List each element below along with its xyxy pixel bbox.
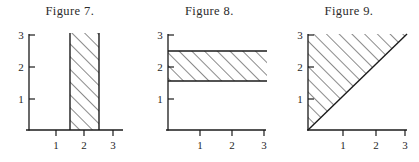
figure-8-shaded-region [168, 51, 267, 81]
figure-9-x-tick-3: 3 [402, 139, 408, 151]
figure-8: Figure 8. [140, 0, 280, 162]
figure-7-x-tick-3: 3 [110, 139, 116, 151]
figure-9-y-tick-1: 1 [297, 93, 303, 105]
figure-7-x-tick-2: 2 [81, 139, 86, 151]
figure-8-plot: 3 2 1 1 2 3 [140, 0, 280, 162]
figure-9-x-tick-1: 1 [340, 139, 346, 151]
figure-7-shaded-region [70, 33, 99, 130]
figure-7-plot: 3 2 1 1 2 3 [0, 0, 140, 162]
figure-8-y-tick-2: 2 [157, 61, 163, 73]
figure-9-x-tick-2: 2 [373, 139, 379, 151]
figure-row: Figure 7. [0, 0, 419, 162]
figure-9-shaded-region [308, 34, 407, 130]
figure-9-plot: 3 2 1 1 2 3 [279, 0, 419, 162]
figure-7-y-tick-1: 1 [18, 93, 24, 105]
figure-8-y-tick-3: 3 [157, 29, 163, 41]
figure-8-x-tick-1: 1 [197, 139, 203, 151]
figure-9: Figure 9. [279, 0, 419, 162]
figure-8-x-tick-3: 3 [261, 139, 267, 151]
figure-8-x-tick-2: 2 [229, 139, 235, 151]
figure-7-y-tick-3: 3 [18, 29, 24, 41]
figure-9-y-tick-3: 3 [297, 29, 303, 41]
figure-7: Figure 7. [0, 0, 140, 162]
figure-9-y-tick-2: 2 [297, 61, 303, 73]
figure-7-x-tick-1: 1 [53, 139, 59, 151]
figure-7-y-tick-2: 2 [18, 61, 24, 73]
figure-8-y-tick-1: 1 [157, 93, 163, 105]
